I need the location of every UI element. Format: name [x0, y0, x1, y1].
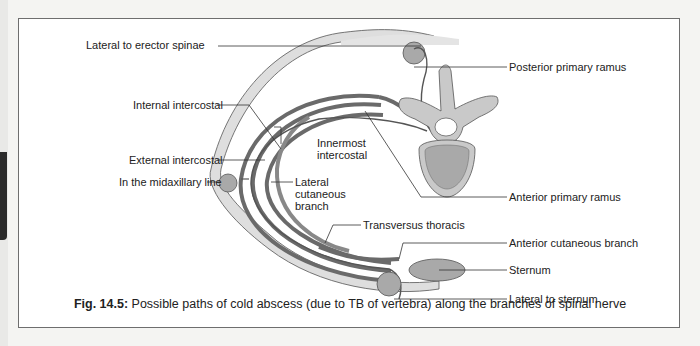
label-lateral-cutaneous-branch: Lateral cutaneous branch: [295, 176, 346, 212]
page-thumb-tab: [0, 152, 7, 240]
label-internal-intercostal: Internal intercostal: [133, 99, 223, 111]
label-innermost-intercostal: Innermost intercostal: [317, 137, 367, 161]
label-posterior-primary-ramus: Posterior primary ramus: [509, 61, 626, 73]
label-in-the-midaxillary-line: In the midaxillary line: [119, 176, 222, 188]
label-external-intercostal: External intercostal: [129, 154, 223, 166]
vertebra: [399, 65, 498, 197]
label-anterior-cutaneous-branch: Anterior cutaneous branch: [509, 237, 638, 249]
label-sternum: Sternum: [509, 264, 551, 276]
abscess-posterior: [403, 42, 425, 64]
label-line: intercostal: [317, 149, 367, 161]
figure-caption: Fig. 14.5: Possible paths of cold absces…: [19, 297, 681, 311]
label-line: branch: [295, 200, 346, 212]
label-line: Innermost: [317, 137, 367, 149]
abscess-sternal: [377, 272, 401, 296]
figure-frame: Lateral to erector spinae Internal inter…: [18, 18, 680, 328]
figure-caption-text: Possible paths of cold abscess (due to T…: [132, 297, 627, 311]
label-anterior-primary-ramus: Anterior primary ramus: [509, 191, 621, 203]
label-transversus-thoracis: Transversus thoracis: [363, 219, 465, 231]
label-line: cutaneous: [295, 188, 346, 200]
label-lateral-to-erector-spinae: Lateral to erector spinae: [86, 39, 205, 51]
label-line: Lateral: [295, 176, 346, 188]
figure-number: Fig. 14.5:: [74, 297, 128, 311]
